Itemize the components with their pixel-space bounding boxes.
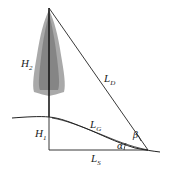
tree-height-diagram: H2 LD LG H1 LS α β [0,0,169,173]
label-h2: H2 [21,58,32,72]
label-lg: LG [90,119,101,133]
label-ld: LD [104,73,115,87]
label-beta: β [133,131,138,140]
diagram-lines [0,0,169,173]
label-ls: LS [91,153,101,167]
label-h1: H1 [35,128,46,142]
label-alpha: α [117,142,123,151]
